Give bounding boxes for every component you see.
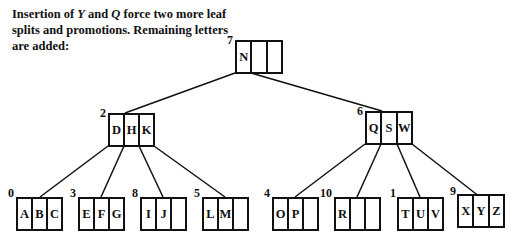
key-cell: Y bbox=[474, 196, 489, 226]
leaf-node: X Y Z bbox=[457, 194, 505, 228]
node-id: 2 bbox=[100, 106, 106, 121]
node-id: 5 bbox=[194, 186, 200, 201]
key-cell: E bbox=[80, 199, 95, 229]
key-cell: B bbox=[33, 199, 48, 229]
key-cell: H bbox=[125, 115, 140, 145]
node-id: 7 bbox=[227, 33, 233, 48]
leaf-node: I J bbox=[140, 197, 187, 231]
key-cell: T bbox=[399, 199, 414, 229]
key-cell: G bbox=[110, 199, 123, 229]
node-id: 0 bbox=[8, 186, 14, 201]
key-cell: K bbox=[140, 115, 153, 145]
key-cell: P bbox=[289, 199, 304, 229]
key-cell: D bbox=[110, 115, 125, 145]
leaf-node: R bbox=[334, 197, 381, 231]
key-cell: R bbox=[336, 199, 351, 229]
key-cell: J bbox=[157, 199, 172, 229]
key-cell: Q bbox=[367, 113, 382, 143]
node-id: 6 bbox=[357, 104, 363, 119]
key-cell: S bbox=[382, 113, 397, 143]
node-id: 10 bbox=[320, 186, 332, 201]
leaf-node: T U V bbox=[397, 197, 444, 231]
leaf-node: O P bbox=[272, 197, 319, 231]
internal-node: Q S W bbox=[365, 111, 413, 145]
key-cell: F bbox=[95, 199, 110, 229]
edge bbox=[397, 144, 420, 197]
key-cell: Z bbox=[490, 196, 503, 226]
key-cell bbox=[351, 199, 366, 229]
key-cell: C bbox=[48, 199, 61, 229]
edge bbox=[139, 146, 163, 197]
node-id: 1 bbox=[390, 186, 396, 201]
leaf-node: L M bbox=[202, 197, 249, 231]
node-id: 8 bbox=[132, 186, 138, 201]
node-id: 4 bbox=[264, 186, 270, 201]
key-cell bbox=[268, 42, 281, 72]
key-cell: M bbox=[219, 199, 234, 229]
key-cell: I bbox=[142, 199, 157, 229]
edge bbox=[357, 144, 381, 197]
key-cell: L bbox=[204, 199, 219, 229]
key-cell: U bbox=[414, 199, 429, 229]
key-cell bbox=[252, 42, 267, 72]
key-cell bbox=[172, 199, 185, 229]
leaf-node: E F G bbox=[78, 197, 125, 231]
key-cell bbox=[234, 199, 247, 229]
root-node: N bbox=[235, 40, 283, 74]
key-cell: A bbox=[18, 199, 33, 229]
edge bbox=[412, 144, 480, 197]
key-cell: X bbox=[459, 196, 474, 226]
node-id: 9 bbox=[450, 184, 456, 199]
key-cell: N bbox=[237, 42, 252, 72]
key-cell: W bbox=[398, 113, 411, 143]
key-cell: V bbox=[429, 199, 442, 229]
edge-root-left bbox=[125, 73, 235, 113]
edge bbox=[154, 146, 225, 197]
key-cell bbox=[366, 199, 379, 229]
key-cell: O bbox=[274, 199, 289, 229]
edge bbox=[101, 146, 124, 197]
key-cell bbox=[304, 199, 317, 229]
node-id: 3 bbox=[70, 186, 76, 201]
internal-node: D H K bbox=[108, 113, 155, 147]
leaf-node: A B C bbox=[16, 197, 63, 231]
